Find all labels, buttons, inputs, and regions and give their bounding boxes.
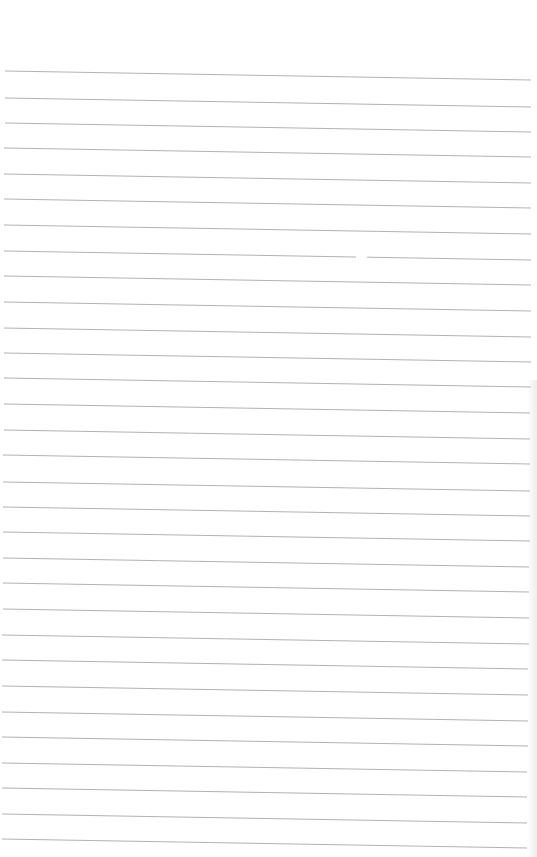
ruled-line: [2, 737, 528, 746]
ruled-line: [3, 507, 530, 516]
ruled-line: [4, 430, 530, 439]
ruled-line: [5, 71, 531, 80]
ruled-line: [4, 276, 531, 285]
ruled-line: [4, 378, 531, 387]
ruled-line: [2, 814, 527, 823]
ruled-line: [4, 174, 531, 183]
ruled-line: [4, 251, 356, 257]
ruled-line: [2, 788, 527, 797]
ruled-line: [4, 199, 531, 208]
ruled-line: [367, 257, 531, 260]
ruled-line: [2, 686, 528, 695]
ruled-line: [2, 839, 527, 848]
ruled-line: [4, 225, 531, 234]
ruled-line: [5, 98, 531, 107]
ruled-line: [3, 609, 529, 618]
ruled-line: [3, 455, 530, 464]
ruled-line: [2, 660, 528, 669]
ruled-line: [5, 123, 531, 132]
ruled-line: [2, 763, 527, 772]
ruled-line: [3, 558, 529, 567]
ruled-line: [4, 404, 530, 413]
ruled-line: [4, 353, 531, 362]
ruled-lines: [0, 0, 537, 857]
ruled-line: [4, 148, 531, 157]
ruled-line: [3, 482, 530, 491]
lined-paper-sheet: [0, 0, 537, 857]
ruled-line: [3, 583, 529, 592]
ruled-line: [3, 532, 530, 541]
ruled-line: [4, 328, 531, 337]
ruled-line: [2, 635, 529, 644]
ruled-line: [4, 302, 531, 311]
ruled-line: [2, 712, 528, 721]
